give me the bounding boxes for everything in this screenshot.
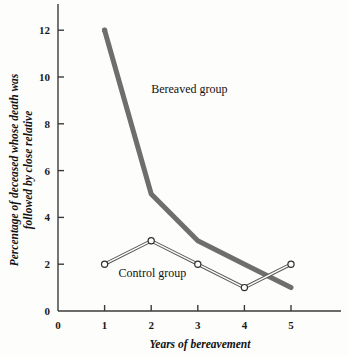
x-tick-label: 3	[195, 319, 201, 331]
y-tick-label: 10	[39, 71, 51, 83]
y-axis-title-line2: followed by close relative	[22, 111, 35, 229]
data-point-marker	[288, 261, 294, 267]
x-tick-label: 1	[102, 319, 108, 331]
data-point-marker	[148, 238, 154, 244]
chart-container: 024681012 012345 Bereaved groupControl g…	[0, 0, 348, 357]
data-point-marker	[241, 285, 247, 291]
line-chart: 024681012 012345 Bereaved groupControl g…	[0, 0, 348, 357]
y-tick-label: 8	[45, 118, 51, 130]
y-tick-label: 6	[45, 165, 51, 177]
data-point-marker	[195, 261, 201, 267]
y-tick-label: 12	[39, 24, 51, 36]
x-tick-label: 4	[242, 319, 248, 331]
y-tick-label: 4	[45, 211, 51, 223]
series-label-control: Control group	[119, 266, 187, 280]
x-tick-label: 2	[148, 319, 154, 331]
data-point-marker	[102, 261, 108, 267]
x-axis-title: Years of bereavement	[150, 338, 252, 351]
y-tick-label: 2	[45, 258, 51, 270]
x-tick-label: 5	[288, 319, 294, 331]
data-point-marker	[102, 28, 107, 33]
series-label-bereaved: Bereaved group	[151, 82, 227, 96]
y-axis-title-line1: Percentage of deceased whose death was	[8, 73, 21, 266]
x-tick-label: 0	[55, 319, 61, 331]
chart-background	[0, 0, 348, 357]
y-tick-label: 0	[45, 305, 51, 317]
